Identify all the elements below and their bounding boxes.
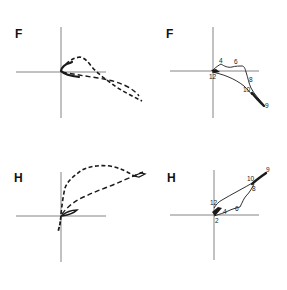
point-label-2: 2 (215, 217, 219, 224)
plot-top-right: 4 6 8 10 9 12 (170, 27, 269, 118)
plot-top-left (16, 27, 142, 118)
point-label-6: 6 (235, 205, 239, 212)
point-label-8: 8 (252, 185, 256, 192)
point-label-10: 10 (247, 175, 255, 182)
point-label-12: 12 (210, 199, 218, 206)
tail (58, 216, 61, 232)
point-label-6: 6 (234, 58, 238, 65)
point-label-4: 4 (223, 208, 227, 215)
plot-bottom-left (16, 166, 145, 262)
thick-segment (252, 93, 264, 106)
figure-canvas: 4 6 8 10 9 12 9 10 8 12 6 4 2 (0, 0, 287, 290)
point-label-9: 9 (266, 166, 270, 173)
dashed-tip (134, 173, 145, 177)
return-path (214, 182, 254, 208)
point-label-4: 4 (219, 57, 223, 64)
point-label-12: 12 (209, 73, 217, 80)
point-label-9: 9 (265, 102, 269, 109)
dashed-loop (61, 166, 134, 214)
point-label-8: 8 (249, 76, 253, 83)
dashed-loop-inner (62, 172, 143, 214)
point-label-10: 10 (243, 86, 251, 93)
plot-bottom-right: 9 10 8 12 6 4 2 (170, 166, 270, 260)
numbered-loop (214, 184, 254, 216)
solid-loop (61, 62, 79, 77)
